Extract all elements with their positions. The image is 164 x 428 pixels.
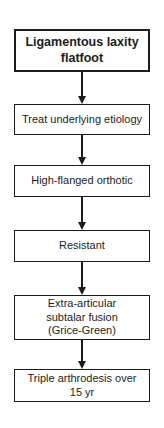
- arrow-stem: [81, 72, 83, 96]
- flow-node-label: Ligamentous laxity flatfoot: [23, 34, 140, 67]
- arrowhead-down-icon: [78, 96, 86, 104]
- down-arrow: [76, 340, 88, 369]
- flow-node-label: Treat underlying etiology: [20, 112, 144, 127]
- down-arrow: [76, 135, 88, 165]
- flowchart: Ligamentous laxity flatfoot Treat underl…: [0, 0, 164, 428]
- arrowhead-down-icon: [78, 287, 86, 295]
- arrowhead-down-icon: [78, 361, 86, 369]
- arrow-stem: [81, 197, 83, 222]
- flow-node-resistant: Resistant: [14, 230, 150, 262]
- arrowhead-down-icon: [78, 157, 86, 165]
- flow-node-label: Resistant: [57, 238, 107, 253]
- flow-node-label: High-flanged orthotic: [29, 173, 135, 188]
- down-arrow: [76, 262, 88, 295]
- down-arrow: [76, 197, 88, 230]
- flow-node-label: Triple arthrodesis over 15 yr: [25, 371, 138, 400]
- flow-node-triple-arthrodesis: Triple arthrodesis over 15 yr: [14, 369, 150, 402]
- flow-node-high-flanged-orthotic: High-flanged orthotic: [14, 165, 150, 197]
- arrow-stem: [81, 340, 83, 361]
- flow-node-label: Extra-articular subtalar fusion (Grice-G…: [44, 296, 120, 338]
- down-arrow: [76, 72, 88, 104]
- flow-node-treat-underlying-etiology: Treat underlying etiology: [14, 104, 150, 135]
- flow-node-extra-articular-subtalar-fusion: Extra-articular subtalar fusion (Grice-G…: [14, 295, 150, 340]
- arrow-stem: [81, 135, 83, 157]
- flow-node-ligamentous-laxity-flatfoot: Ligamentous laxity flatfoot: [14, 29, 150, 72]
- arrow-stem: [81, 262, 83, 287]
- arrowhead-down-icon: [78, 222, 86, 230]
